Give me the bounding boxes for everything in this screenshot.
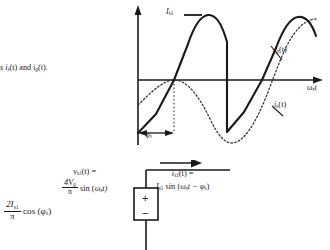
plot-canvas bbox=[126, 2, 330, 152]
voltage-num-text: 4V bbox=[64, 178, 73, 187]
curve-ig-solid bbox=[138, 15, 316, 133]
voltage-fraction: 4Vgπ bbox=[62, 179, 78, 198]
voltage-sin-end: t) bbox=[102, 183, 107, 192]
caption-text-3: (t). bbox=[38, 63, 48, 72]
left-eq-num-text: 2I bbox=[6, 199, 14, 209]
circuit-canvas bbox=[100, 160, 330, 250]
curve-label-is: is(t) bbox=[274, 100, 286, 109]
branch-current-line2: Is1 sin (ωst − φs) bbox=[156, 181, 209, 194]
phase-label: φs bbox=[145, 130, 152, 139]
branch-current-line1: is1(t) = bbox=[156, 168, 209, 181]
caption-fragment: s is(t) and ig(t). bbox=[0, 63, 48, 72]
source-voltage-label: vs1(t) = 4Vgπ sin (ωst) bbox=[62, 166, 107, 197]
left-eq-close: ) bbox=[48, 206, 51, 216]
left-eq-cos: cos (φ bbox=[23, 206, 46, 216]
caption-text-2: (t) and i bbox=[10, 63, 36, 72]
left-equation-fraction: 2Is1π bbox=[4, 200, 21, 221]
current-arrow bbox=[160, 160, 202, 167]
waveform-plot: Is1 ig(t) is(t) ωst φs bbox=[126, 2, 330, 152]
amplitude-label: Is1 bbox=[166, 7, 173, 16]
caption-text-1: s i bbox=[0, 63, 8, 72]
branch-current-label: is1(t) = Is1 sin (ωst − φs) bbox=[156, 168, 209, 193]
phase-arrow bbox=[138, 130, 174, 136]
voltage-denominator: π bbox=[62, 188, 78, 197]
current-I-sub: s1 bbox=[159, 185, 164, 191]
curve-label-ig: ig(t) bbox=[274, 45, 287, 54]
voltage-sin: sin (ω bbox=[80, 183, 100, 192]
curve-label-is-tail: (t) bbox=[278, 100, 286, 109]
source-plus-sign: + bbox=[142, 193, 148, 204]
current-sin: sin (ω bbox=[166, 182, 186, 191]
current-close: ) bbox=[207, 182, 210, 191]
circuit-schematic: + − vs1(t) = 4Vgπ sin (ωst) is1(t) = Is1… bbox=[100, 160, 330, 250]
left-equation: 2Is1π cos (φs) bbox=[4, 200, 51, 221]
x-axis-label: ωst bbox=[307, 83, 317, 92]
x-axis-label-t: t bbox=[315, 83, 317, 92]
left-equation-numerator: 2Is1 bbox=[4, 200, 21, 212]
phase-label-sub: s bbox=[150, 133, 152, 139]
source-voltage-line2: 4Vgπ sin (ωst) bbox=[62, 179, 107, 198]
amplitude-label-sub: s1 bbox=[169, 10, 174, 16]
left-eq-num-sub: s1 bbox=[14, 204, 19, 210]
current-tail: (t) = bbox=[179, 169, 194, 178]
source-minus-sign: − bbox=[142, 208, 148, 219]
y-axis bbox=[135, 5, 142, 145]
curve-label-ig-tail: (t) bbox=[279, 45, 287, 54]
current-sin-end: t − φ bbox=[188, 182, 205, 191]
figure-page: s is(t) and ig(t). bbox=[0, 0, 330, 250]
voltage-num-sub: g bbox=[73, 181, 76, 187]
voltage-tail: (t) = bbox=[81, 167, 96, 176]
left-equation-denominator: π bbox=[4, 212, 21, 222]
